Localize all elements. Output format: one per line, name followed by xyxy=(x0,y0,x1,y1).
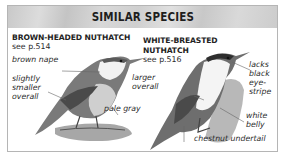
label-slightly: slightly xyxy=(12,74,40,83)
label-overall-2: overall xyxy=(132,82,159,91)
species-ref-white-breasted: see p.516 xyxy=(143,55,181,64)
species-name-white-breasted-2: NUTHATCH xyxy=(143,46,189,55)
species-name-brown-headed: BROWN-HEADED NUTHATCH xyxy=(12,33,130,42)
label-chestnut-undertail: chestnut undertail xyxy=(194,134,266,143)
brown-headed-nuthatch-illustration xyxy=(35,56,145,141)
label-eye: eye- xyxy=(249,78,266,87)
label-white: white xyxy=(246,111,267,120)
species-ref-brown-headed: see p.514 xyxy=(12,42,50,51)
label-black: black xyxy=(249,69,270,78)
label-overall: overall xyxy=(12,92,39,101)
label-lacks: lacks xyxy=(249,60,269,69)
label-smaller: smaller xyxy=(12,83,41,92)
label-stripe: stripe xyxy=(249,87,271,96)
label-brown-nape: brown nape xyxy=(12,55,58,64)
label-larger: larger xyxy=(132,73,155,82)
label-pale-gray: pale gray xyxy=(104,104,141,113)
label-belly: belly xyxy=(246,120,265,129)
species-name-white-breasted-1: WHITE-BREASTED xyxy=(143,36,218,45)
